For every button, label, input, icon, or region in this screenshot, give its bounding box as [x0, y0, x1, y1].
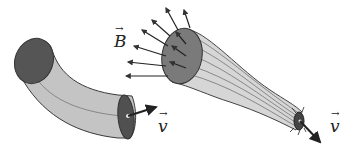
right-velocity-label: v [330, 118, 340, 135]
v-symbol-left: v [158, 118, 168, 135]
right-flux-tube [126, 8, 320, 142]
left-velocity-label: v [158, 118, 168, 135]
flux-tube-diagram [0, 0, 352, 149]
left-flux-tube [8, 33, 156, 140]
v-symbol-right: v [330, 118, 340, 135]
magnetic-field-label: B [114, 33, 127, 50]
b-symbol: B [114, 33, 127, 50]
right-velocity-arrow [300, 121, 320, 142]
